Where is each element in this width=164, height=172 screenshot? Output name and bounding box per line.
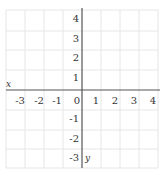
y-tick-label: -1 <box>69 113 79 124</box>
x-axis-label: x <box>6 79 11 89</box>
x-tick-label: 0 <box>74 95 80 106</box>
x-tick-labels: -3 -2 -1 0 1 2 3 4 <box>15 95 156 106</box>
y-tick-label: 2 <box>73 52 79 63</box>
x-tick-label: 2 <box>112 95 118 106</box>
x-tick-label: 3 <box>131 95 137 106</box>
x-tick-label: -2 <box>34 95 44 106</box>
y-tick-label: 4 <box>73 13 79 24</box>
coordinate-plane: x y -3 -2 -1 0 1 2 3 4 4 3 2 1 -1 -2 -3 <box>0 0 164 172</box>
x-tick-label: -3 <box>15 95 25 106</box>
y-axis-label: y <box>84 153 91 163</box>
y-tick-label: -2 <box>69 133 79 144</box>
x-tick-label: -1 <box>52 95 62 106</box>
x-tick-label: 4 <box>150 95 156 106</box>
y-tick-label: 1 <box>73 72 79 83</box>
y-tick-labels: 4 3 2 1 -1 -2 -3 <box>69 13 79 163</box>
y-tick-label: 3 <box>73 33 79 44</box>
x-tick-label: 1 <box>93 95 99 106</box>
y-tick-label: -3 <box>69 152 79 163</box>
